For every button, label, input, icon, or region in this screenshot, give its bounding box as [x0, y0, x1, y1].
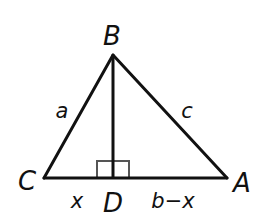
vertex-label-c: C	[18, 168, 36, 194]
side-label-c: c	[181, 101, 193, 122]
side-bc	[44, 55, 113, 178]
triangle-diagram: B C A D a c x b−x	[0, 0, 270, 219]
side-ba	[113, 55, 227, 178]
vertex-label-b: B	[103, 23, 121, 49]
segment-label-b-minus-x: b−x	[151, 191, 194, 212]
side-label-a: a	[56, 101, 69, 122]
vertex-label-a: A	[233, 170, 251, 196]
segment-label-x: x	[71, 191, 83, 212]
vertex-label-d: D	[103, 190, 123, 216]
triangle-svg	[0, 0, 270, 219]
